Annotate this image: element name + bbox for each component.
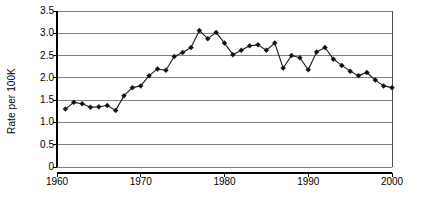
x-tick-label: 2000 bbox=[370, 176, 414, 187]
x-tick-label: 1980 bbox=[203, 176, 247, 187]
x-tick-label: 1970 bbox=[119, 176, 163, 187]
x-axis-tick-labels: 19601970198019902000 bbox=[0, 0, 426, 202]
x-tick-label: 1960 bbox=[35, 176, 79, 187]
line-chart: Rate per 100K 00.51.01.52.02.53.03.5 196… bbox=[0, 0, 426, 202]
x-tick-label: 1990 bbox=[286, 176, 330, 187]
